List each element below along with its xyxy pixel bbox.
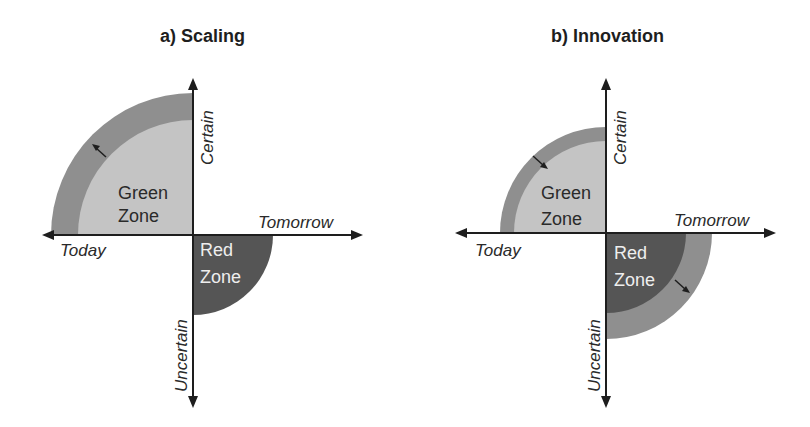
axis-label-today: Today <box>475 241 522 260</box>
green-zone-label-line2: Zone <box>118 206 159 226</box>
arrow-left-icon <box>42 230 54 240</box>
arrow-down-icon <box>188 396 198 408</box>
arrow-up-icon <box>188 78 198 90</box>
axis-label-today: Today <box>60 241 107 260</box>
red-zone-label-line1: Red <box>614 243 647 263</box>
green-zone-label-line2: Zone <box>541 209 582 229</box>
axis-label-uncertain: Uncertain <box>172 319 191 392</box>
axis-label-certain: Certain <box>198 110 217 165</box>
red-zone-label-line2: Zone <box>614 270 655 290</box>
green-zone-label-line1: Green <box>541 183 591 203</box>
arrow-down-icon <box>601 396 611 408</box>
arrow-right-icon <box>764 228 776 238</box>
arrow-right-icon <box>351 230 363 240</box>
red-zone-label-line1: Red <box>200 240 233 260</box>
axis-label-uncertain: Uncertain <box>585 319 604 392</box>
axis-label-tomorrow: Tomorrow <box>258 213 335 232</box>
arrow-up-icon <box>601 78 611 90</box>
green-zone-label-line1: Green <box>118 183 168 203</box>
red-zone-label-line2: Zone <box>200 267 241 287</box>
axis-label-tomorrow: Tomorrow <box>674 211 751 230</box>
arrow-left-icon <box>455 228 467 238</box>
quadrant-diagram-scaling: Green Zone Red Zone Today Tomorrow Certa… <box>0 0 405 427</box>
panel-innovation: b) Innovation Green Zone Red Zone Today … <box>405 0 810 427</box>
axis-label-certain: Certain <box>611 110 630 165</box>
quadrant-diagram-innovation: Green Zone Red Zone Today Tomorrow Certa… <box>405 0 810 427</box>
panel-scaling: a) Scaling Green Zone Red Zone Today Tom… <box>0 0 405 427</box>
